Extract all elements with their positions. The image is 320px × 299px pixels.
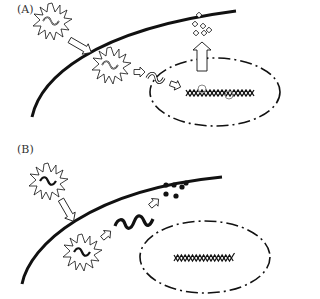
- host-dna-integrated: [186, 85, 254, 99]
- genome-release-arrow-icon: [99, 227, 114, 242]
- nuclear-entry-arrow-icon: [169, 79, 183, 92]
- viral-genome: [147, 74, 164, 83]
- export-arrow-icon: [193, 42, 211, 71]
- degradation-arrow-icon: [147, 195, 162, 210]
- virus-particle-outside: [33, 3, 72, 40]
- virus-particle-inside: [63, 234, 102, 271]
- genome-release-arrow-icon: [134, 67, 145, 77]
- viral-genome: [115, 216, 153, 228]
- host-dna: [174, 253, 234, 261]
- virus-particle-inside: [92, 47, 131, 84]
- panel-b: [22, 163, 270, 293]
- virus-particle-outside: [29, 163, 68, 200]
- panel-a: [32, 3, 280, 126]
